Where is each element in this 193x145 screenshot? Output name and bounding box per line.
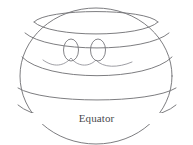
band-top-arc — [25, 33, 169, 48]
equator-label: Equator — [0, 113, 193, 124]
figure-canvas: Equator — [0, 0, 193, 145]
mid-latitude-arc — [22, 57, 172, 76]
loop-right — [91, 39, 106, 61]
upper-latitude-arc — [34, 22, 158, 34]
lower-latitude-arc — [18, 88, 176, 100]
equator-label-text: Equator — [76, 112, 118, 124]
wavy-band-line — [43, 58, 132, 66]
